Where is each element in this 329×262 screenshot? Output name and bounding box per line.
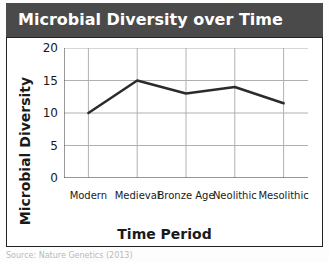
y-tick-label: 15 [43, 74, 58, 88]
x-tick-label: Neolithic [213, 190, 257, 201]
plot-area: 05101520ModernMedievalBronze AgeNeolithi… [64, 48, 308, 178]
y-tick-label: 5 [50, 139, 58, 153]
y-axis-title: Microbial Diversity [17, 71, 33, 231]
x-tick-label: Medieval [115, 190, 160, 201]
y-tick-label: 0 [50, 171, 58, 185]
plot-frame: Microbial Diversity 05101520ModernMediev… [6, 37, 323, 247]
x-axis-title: Time Period [7, 226, 322, 242]
x-tick-label: Modern [70, 190, 108, 201]
y-tick-label: 10 [43, 106, 58, 120]
line-chart-svg [64, 48, 308, 178]
y-tick-label: 20 [43, 41, 58, 55]
x-tick-label: Bronze Age [157, 190, 214, 201]
x-tick-label: Mesolithic [258, 190, 308, 201]
figure-source-note: Source: Nature Genetics (2013) [6, 250, 323, 261]
chart-figure: Microbial Diversity over Time Microbial … [0, 0, 329, 262]
chart-header-bar: Microbial Diversity over Time [6, 3, 323, 37]
chart-title: Microbial Diversity over Time [18, 10, 283, 29]
